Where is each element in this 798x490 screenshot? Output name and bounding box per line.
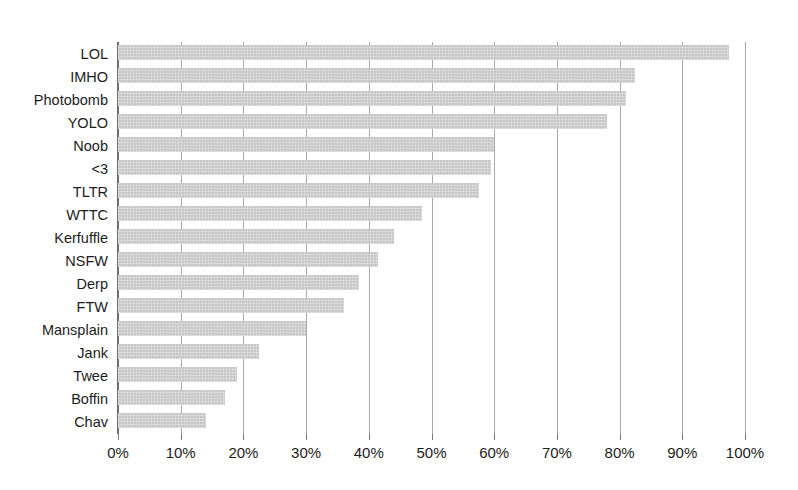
- category-label: NSFW: [65, 251, 108, 271]
- bar-chav: [118, 413, 206, 428]
- bar-row: [118, 203, 745, 226]
- x-axis-tick-mark: [557, 434, 558, 440]
- category-label: Photobomb: [34, 90, 108, 110]
- bar-ftw: [118, 298, 344, 313]
- plot-area: [118, 42, 745, 434]
- category-label: IMHO: [70, 67, 108, 87]
- bar-derp: [118, 275, 359, 290]
- x-axis-tick-mark: [118, 434, 119, 440]
- category-label: <3: [91, 159, 108, 179]
- category-label: Chav: [74, 412, 108, 432]
- x-axis-tick-label: 90%: [667, 444, 697, 461]
- bar-row: [118, 342, 745, 365]
- category-label: Twee: [73, 366, 108, 386]
- bar-row: [118, 88, 745, 111]
- bar-row: [118, 273, 745, 296]
- bar-jank: [118, 344, 259, 359]
- x-axis-tick-mark: [181, 434, 182, 440]
- bar-row: [118, 319, 745, 342]
- x-axis-tick-labels: 0%10%20%30%40%50%60%70%80%90%100%: [0, 444, 798, 468]
- x-axis-tick-label: 100%: [726, 444, 764, 461]
- bar-lol: [118, 45, 729, 60]
- bar-photobomb: [118, 91, 626, 106]
- bar-3: [118, 160, 491, 175]
- x-axis-tick-label: 0%: [107, 444, 129, 461]
- bar-chart: 0%10%20%30%40%50%60%70%80%90%100% LOLIMH…: [0, 0, 798, 490]
- bar-row: [118, 250, 745, 273]
- bar-row: [118, 134, 745, 157]
- bar-boffin: [118, 390, 225, 405]
- x-axis-tick-label: 70%: [542, 444, 572, 461]
- bar-kerfuffle: [118, 229, 394, 244]
- x-axis-tick-label: 80%: [605, 444, 635, 461]
- bar-twee: [118, 367, 237, 382]
- category-label: YOLO: [68, 113, 108, 133]
- bar-row: [118, 65, 745, 88]
- bar-row: [118, 111, 745, 134]
- x-axis-tick-label: 40%: [354, 444, 384, 461]
- bar-mansplain: [118, 321, 306, 336]
- x-axis-tick-mark: [432, 434, 433, 440]
- category-label: Mansplain: [42, 320, 108, 340]
- category-label: Jank: [77, 343, 108, 363]
- category-label: Derp: [77, 274, 108, 294]
- x-axis-tick-label: 60%: [479, 444, 509, 461]
- x-axis-tick-mark: [243, 434, 244, 440]
- category-label: Boffin: [71, 389, 108, 409]
- x-axis-tick-mark: [369, 434, 370, 440]
- bar-row: [118, 157, 745, 180]
- category-label: TLTR: [73, 182, 108, 202]
- bar-row: [118, 296, 745, 319]
- bar-yolo: [118, 114, 607, 129]
- bar-row: [118, 365, 745, 388]
- category-label: FTW: [77, 297, 108, 317]
- bar-imho: [118, 68, 635, 83]
- bar-tltr: [118, 183, 479, 198]
- x-axis-tick-mark: [682, 434, 683, 440]
- category-label: WTTC: [66, 205, 108, 225]
- x-axis-tick-label: 10%: [166, 444, 196, 461]
- bar-row: [118, 180, 745, 203]
- category-label: LOL: [81, 44, 108, 64]
- bar-nsfw: [118, 252, 378, 267]
- x-axis-tick-mark: [745, 434, 746, 440]
- bar-row: [118, 42, 745, 65]
- x-axis-tick-mark: [620, 434, 621, 440]
- bar-row: [118, 226, 745, 249]
- gridline: [745, 42, 746, 434]
- category-label: Noob: [73, 136, 108, 156]
- bar-wttc: [118, 206, 422, 221]
- x-axis-tick-mark: [494, 434, 495, 440]
- category-label: Kerfuffle: [54, 228, 108, 248]
- x-axis-tick-label: 50%: [416, 444, 446, 461]
- x-axis-tick-label: 20%: [228, 444, 258, 461]
- x-axis-tick-mark: [306, 434, 307, 440]
- bar-noob: [118, 137, 494, 152]
- bar-row: [118, 411, 745, 434]
- bar-row: [118, 388, 745, 411]
- x-axis-tick-label: 30%: [291, 444, 321, 461]
